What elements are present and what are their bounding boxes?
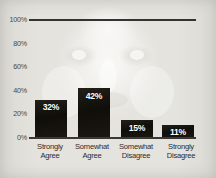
y-tick-60: 60% bbox=[1, 62, 27, 71]
bar-value-strongly-disagree: 11% bbox=[162, 127, 194, 137]
bar-chart-figure: 100% 80% 60% 40% 20% 0% 32% 42% 15% 11% bbox=[0, 0, 216, 178]
y-tick-100: 100% bbox=[1, 15, 27, 24]
bar-value-somewhat-disagree: 15% bbox=[121, 123, 153, 133]
y-tick-0: 0% bbox=[1, 133, 27, 142]
y-tick-40: 40% bbox=[1, 85, 27, 94]
bar-group-somewhat-disagree: 15% bbox=[121, 19, 153, 138]
bar-strongly-agree[interactable]: 32% bbox=[35, 100, 67, 138]
y-tick-80: 80% bbox=[1, 38, 27, 47]
category-label-somewhat-disagree: Somewhat Disagree bbox=[113, 142, 159, 161]
category-label-somewhat-agree: Somewhat Agree bbox=[70, 142, 114, 161]
bar-group-strongly-agree: 32% bbox=[35, 19, 67, 138]
bar-somewhat-agree[interactable]: 42% bbox=[78, 88, 110, 138]
y-axis: 100% 80% 60% 40% 20% 0% bbox=[0, 0, 27, 178]
y-tick-20: 20% bbox=[1, 109, 27, 118]
bar-group-strongly-disagree: 11% bbox=[162, 19, 194, 138]
bar-somewhat-disagree[interactable]: 15% bbox=[121, 120, 153, 138]
bar-value-somewhat-agree: 42% bbox=[78, 91, 110, 101]
category-label-strongly-disagree: Strongly Disagree bbox=[158, 142, 204, 161]
plot-area: 32% 42% 15% 11% bbox=[29, 19, 196, 138]
category-label-strongly-agree: Strongly Agree bbox=[29, 142, 71, 161]
baseline-axis bbox=[29, 137, 196, 139]
bar-value-strongly-agree: 32% bbox=[35, 102, 67, 112]
bar-group-somewhat-agree: 42% bbox=[78, 19, 110, 138]
